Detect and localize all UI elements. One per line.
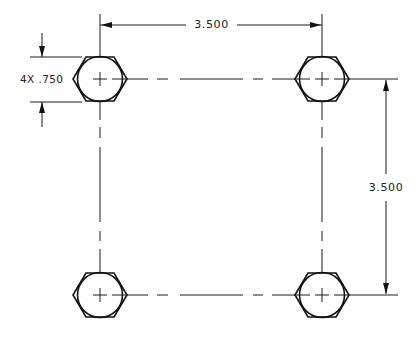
horizontal-centerline-top (93, 72, 398, 86)
arrowhead-left-icon (101, 22, 112, 28)
arrowhead-down-icon (383, 283, 389, 294)
arrowhead-right-icon (310, 22, 321, 28)
arrowhead-up-icon (383, 80, 389, 91)
vertical-dimension-label: 3.500 (360, 180, 412, 196)
hole-size-label: 4X .750 (20, 71, 72, 87)
arrowhead-up-icon (39, 102, 45, 113)
bolt-pattern-drawing (0, 0, 420, 337)
horizontal-dimension-label: 3.500 (186, 17, 237, 33)
arrowhead-down-icon (39, 46, 45, 57)
